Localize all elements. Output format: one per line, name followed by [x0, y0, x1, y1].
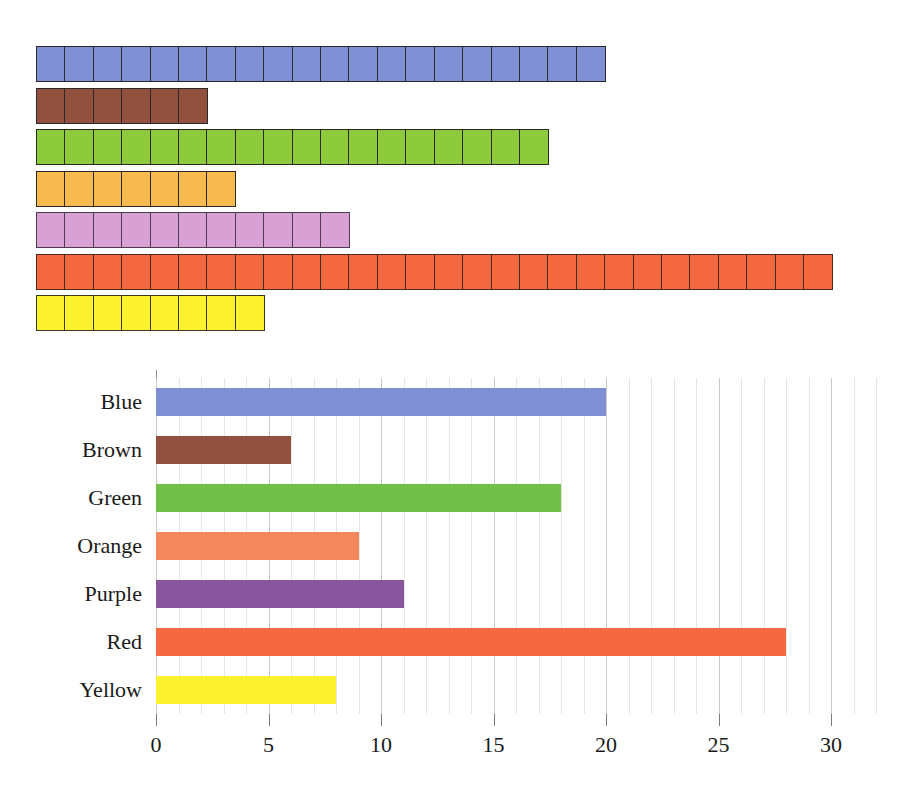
pictograph-row-red: [36, 254, 833, 290]
pictograph-unit-square: [93, 88, 123, 124]
pictograph-unit-square: [292, 129, 322, 165]
pictograph-unit-square: [377, 46, 407, 82]
pictograph-unit-square: [36, 295, 66, 331]
pictograph-unit-square: [235, 46, 265, 82]
chart-bar-orange[interactable]: [156, 532, 359, 560]
pictograph-unit-square: [405, 46, 435, 82]
pictograph-unit-square: [320, 212, 350, 248]
pictograph-unit-square: [320, 46, 350, 82]
chart-bar-slot-brown: [156, 426, 876, 474]
pictograph-unit-square: [64, 88, 94, 124]
chart-xtick-label: 25: [708, 732, 730, 758]
chart-category-label-red: Red: [0, 618, 142, 666]
pictograph-unit-square: [263, 129, 293, 165]
chart-xtick-label: 5: [263, 732, 274, 758]
pictograph-unit-square: [320, 254, 350, 290]
chart-xtick-label: 15: [483, 732, 505, 758]
pictograph-unit-square: [36, 212, 66, 248]
pictograph-unit-square: [36, 46, 66, 82]
pictograph-unit-square: [150, 212, 180, 248]
pictograph-unit-square: [263, 212, 293, 248]
pictograph-unit-square: [547, 254, 577, 290]
pictograph-unit-square: [292, 46, 322, 82]
pictograph-unit-square: [803, 254, 833, 290]
chart-bar-brown[interactable]: [156, 436, 291, 464]
chart-bar-slot-yellow: [156, 666, 876, 714]
pictograph-unit-square: [519, 129, 549, 165]
pictograph-unit-square: [178, 295, 208, 331]
pictograph-unit-square: [150, 171, 180, 207]
pictograph-unit-square: [348, 46, 378, 82]
chart-category-label-blue: Blue: [0, 378, 142, 426]
pictograph-unit-square: [64, 212, 94, 248]
pictograph-unit-square: [235, 129, 265, 165]
pictograph-unit-square: [206, 129, 236, 165]
pictograph-unit-square: [64, 295, 94, 331]
pictograph-unit-square: [178, 212, 208, 248]
pictograph-unit-square: [235, 295, 265, 331]
pictograph-unit-square: [64, 46, 94, 82]
chart-xtick-mark: [156, 714, 157, 726]
chart-bar-yellow[interactable]: [156, 676, 336, 704]
chart-bar-purple[interactable]: [156, 580, 404, 608]
pictograph-row-brown: [36, 88, 208, 124]
pictograph-unit-square: [93, 129, 123, 165]
pictograph-unit-square: [36, 171, 66, 207]
pictograph-unit-square: [64, 129, 94, 165]
chart-category-label-green: Green: [0, 474, 142, 522]
pictograph-unit-square: [718, 254, 748, 290]
chart-xtick-mark: [606, 714, 607, 726]
pictograph-unit-square: [206, 212, 236, 248]
pictograph-unit-square: [491, 129, 521, 165]
pictograph-unit-square: [206, 254, 236, 290]
chart-bar-blue[interactable]: [156, 388, 606, 416]
pictograph-unit-square: [235, 212, 265, 248]
pictograph-unit-square: [150, 46, 180, 82]
pictograph-unit-square: [491, 46, 521, 82]
pictograph-unit-square: [434, 129, 464, 165]
pictograph-unit-square: [689, 254, 719, 290]
chart-xtick-mark: [494, 714, 495, 726]
chart-bar-slot-purple: [156, 570, 876, 618]
pictograph-unit-square: [150, 295, 180, 331]
pictograph-unit-square: [206, 295, 236, 331]
pictograph-row-purple: [36, 212, 350, 248]
pictograph-unit-square: [206, 171, 236, 207]
chart-gridline-minor: [876, 378, 877, 714]
pictograph-unit-square: [434, 254, 464, 290]
pictograph-unit-square: [93, 171, 123, 207]
pictograph-unit-square: [36, 129, 66, 165]
pictograph-unit-square: [93, 212, 123, 248]
pictograph-unit-square: [178, 129, 208, 165]
chart-bar-green[interactable]: [156, 484, 561, 512]
pictograph-unit-square: [93, 295, 123, 331]
chart-xtick-mark: [719, 714, 720, 726]
pictograph-unit-square: [178, 171, 208, 207]
pictograph-unit-square: [93, 254, 123, 290]
pictograph-unit-square: [604, 254, 634, 290]
pictograph-unit-square: [150, 254, 180, 290]
pictograph-unit-square: [519, 46, 549, 82]
pictograph-unit-square: [377, 254, 407, 290]
pictograph-unit-square: [178, 46, 208, 82]
pictograph-unit-square: [263, 46, 293, 82]
chart-bar-red[interactable]: [156, 628, 786, 656]
pictograph-unit-square: [263, 254, 293, 290]
bar-chart-panel: BlueBrownGreenOrangePurpleRedYellow05101…: [0, 340, 918, 809]
pictograph-panel: [0, 0, 918, 340]
pictograph-unit-square: [746, 254, 776, 290]
pictograph-unit-square: [121, 88, 151, 124]
pictograph-unit-square: [547, 46, 577, 82]
pictograph-unit-square: [434, 46, 464, 82]
pictograph-unit-square: [348, 129, 378, 165]
pictograph-unit-square: [206, 46, 236, 82]
chart-xtick-label: 0: [151, 732, 162, 758]
pictograph-unit-square: [36, 254, 66, 290]
pictograph-row-yellow: [36, 295, 265, 331]
pictograph-row-orange: [36, 171, 236, 207]
chart-xtick-label: 30: [820, 732, 842, 758]
chart-category-label-orange: Orange: [0, 522, 142, 570]
pictograph-unit-square: [235, 254, 265, 290]
chart-xtick-mark: [269, 714, 270, 726]
chart-xtick-mark: [381, 714, 382, 726]
